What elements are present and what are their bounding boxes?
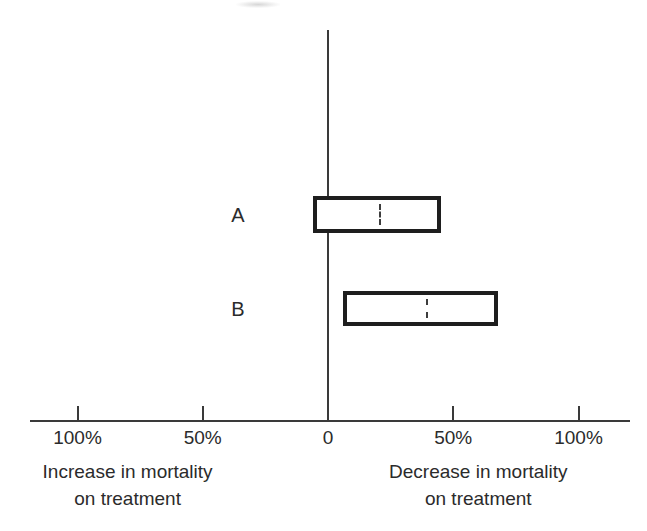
x-axis-tick-label: 100% [554, 426, 603, 450]
median-marker [379, 204, 381, 225]
x-axis-tick [202, 406, 204, 421]
x-axis-tick-label: 50% [434, 426, 472, 450]
interval-box [313, 196, 441, 233]
caption-line-1: Decrease in mortality [389, 461, 567, 482]
row-label-b: B [231, 297, 244, 321]
x-axis-tick-label: 50% [184, 426, 222, 450]
caption-line-1: Increase in mortality [43, 461, 213, 482]
x-axis-line [30, 420, 630, 422]
axis-caption-right: Decrease in mortalityon treatment [389, 458, 567, 512]
x-axis-tick-label: 0 [323, 426, 334, 450]
median-marker [426, 299, 428, 318]
x-axis-tick-label: 100% [53, 426, 102, 450]
mortality-interval-chart: 100%50%050%100% AB Increase in mortality… [0, 0, 647, 531]
axis-caption-left: Increase in mortalityon treatment [43, 458, 213, 512]
caption-line-2: on treatment [43, 485, 213, 512]
x-axis-tick [77, 406, 79, 421]
caption-line-2: on treatment [389, 485, 567, 512]
x-axis-tick [327, 406, 329, 421]
x-axis-tick [452, 406, 454, 421]
x-axis-tick [578, 406, 580, 421]
scan-artifact-smudge [236, 1, 280, 8]
row-label-a: A [231, 203, 244, 227]
interval-box [343, 291, 498, 326]
